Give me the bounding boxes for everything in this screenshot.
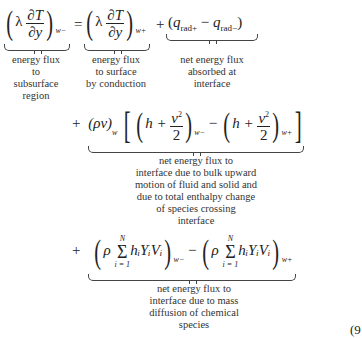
q-rad-plus-sub: rad+ <box>181 23 198 33</box>
subscript-w-minus: w− <box>194 128 205 137</box>
note-line: to <box>4 66 68 78</box>
equals-sign: = <box>74 16 82 33</box>
subscript-w-plus: w+ <box>281 128 292 137</box>
diffusion-annotation: net energy flux to interface due to mass… <box>134 283 254 331</box>
note-line: region <box>4 90 68 102</box>
bulk-motion-term: + (ρv)w [(h + v2 2 )w− − (h + v2 2 )w+] <box>72 106 305 144</box>
h-Y-V-product: hᵢYᵢVᵢ <box>130 242 162 258</box>
rho-symbol: ρ <box>104 242 111 258</box>
bulk-annotation: net energy flux to interface due to bulk… <box>122 155 270 227</box>
q-symbol: q <box>173 14 181 30</box>
radiation-term: (qrad+ − qrad−) <box>168 14 242 31</box>
note-line: interface due to mass <box>134 295 254 307</box>
radiation-annotation: net energy flux absorbed at interface <box>170 54 254 90</box>
fraction-numerator: ∂T <box>26 7 44 24</box>
h-Y-V-product: hᵢYᵢVᵢ <box>238 242 270 258</box>
fraction-denominator: ∂y <box>28 24 42 40</box>
equation-number: (9 <box>350 322 361 338</box>
subscript-w-plus: w+ <box>135 26 146 35</box>
note-line: net energy flux <box>170 54 254 66</box>
note-line: energy flux <box>78 54 154 66</box>
note-line: absorbed at <box>170 66 254 78</box>
diffusion-term: + (ρ N Σ i = 1 hᵢYᵢVᵢ)w− − (ρ N Σ i = 1 … <box>72 234 292 270</box>
denominator-2: 2 <box>173 127 181 143</box>
v2-over-2: v2 2 <box>170 107 183 143</box>
plus-sign: + <box>72 115 80 131</box>
subscript-w-minus: w− <box>174 255 185 264</box>
subscript-w: w <box>112 128 117 137</box>
minus-sign: − <box>201 14 209 30</box>
h-plus: h + <box>232 115 253 131</box>
note-line: diffusion of chemical <box>134 307 254 319</box>
note-line: due to total enthalpy change <box>122 191 270 203</box>
note-line: subsurface <box>4 78 68 90</box>
subscript-w-plus: w+ <box>282 255 293 264</box>
q-rad-minus-sub: rad− <box>221 23 238 33</box>
lambda-symbol: λ <box>15 13 22 29</box>
lhs-term: (λ ∂T ∂y )w− <box>4 6 66 40</box>
summation: N Σ i = 1 <box>223 234 239 270</box>
lhs-underbrace <box>4 44 70 51</box>
note-line: interface <box>122 215 270 227</box>
summation: N Σ i = 1 <box>115 234 131 270</box>
note-line: energy flux <box>4 54 68 66</box>
conduction-term: (λ ∂T ∂y )w+ <box>84 6 146 40</box>
sum-lower-limit: i = 1 <box>223 260 239 270</box>
denominator-2: 2 <box>260 127 268 143</box>
sum-lower-limit: i = 1 <box>115 260 131 270</box>
note-line: interface due to bulk upward <box>122 167 270 179</box>
note-line: net energy flux to <box>134 283 254 295</box>
v2-over-2: v2 2 <box>257 107 270 143</box>
note-line: interface <box>170 78 254 90</box>
lhs-annotation: energy flux to subsurface region <box>4 54 68 102</box>
fraction-numerator: ∂T <box>106 7 124 24</box>
h-plus: h + <box>145 115 166 131</box>
note-line: net energy flux to <box>122 155 270 167</box>
minus-sign: − <box>188 242 196 258</box>
v-symbol: v <box>171 110 178 126</box>
sigma-icon: Σ <box>225 244 235 260</box>
conduction-underbrace <box>84 44 150 51</box>
note-line: motion of fluid and solid and <box>122 179 270 191</box>
plus-sign: + <box>156 16 164 33</box>
rho-symbol: ρ <box>212 242 219 258</box>
dT-dy-fraction: ∂T ∂y <box>26 7 44 40</box>
plus-sign: + <box>72 242 80 258</box>
subscript-w-minus: w− <box>55 26 66 35</box>
note-line: to surface <box>78 66 154 78</box>
diffusion-underbrace <box>88 274 296 281</box>
note-line: species <box>134 319 254 331</box>
bulk-underbrace <box>88 146 304 153</box>
lambda-symbol: λ <box>95 13 102 29</box>
minus-sign: − <box>209 115 217 131</box>
rho-v: (ρv) <box>88 115 112 131</box>
fraction-denominator: ∂y <box>108 24 122 40</box>
superscript-2: 2 <box>265 110 269 119</box>
superscript-2: 2 <box>178 110 182 119</box>
conduction-annotation: energy flux to surface by conduction <box>78 54 154 90</box>
note-line: of species crossing <box>122 203 270 215</box>
note-line: by conduction <box>78 78 154 90</box>
radiation-underbrace <box>166 34 258 41</box>
q-symbol: q <box>213 14 221 30</box>
dT-dy-fraction: ∂T ∂y <box>106 7 124 40</box>
sigma-icon: Σ <box>117 244 127 260</box>
